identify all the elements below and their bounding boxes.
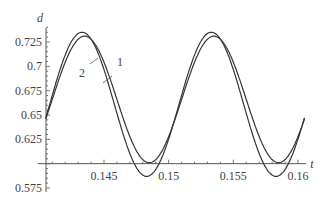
x-tick-label: 0.16: [288, 169, 309, 183]
y-tick-label: 0.7: [27, 59, 42, 73]
y-tick-label: 0.65: [21, 108, 42, 122]
annotation-leader-2: [90, 58, 98, 64]
y-tick-label: 0.725: [15, 35, 42, 49]
series-2-curve: [46, 36, 305, 163]
annotation-label-2: 2: [79, 66, 85, 80]
y-axis-label: d: [37, 11, 44, 25]
y-tick-label: 0.675: [15, 84, 42, 98]
x-tick-label: 0.155: [220, 169, 247, 183]
annotation-label-1: 1: [117, 55, 123, 69]
y-tick-label: 0.625: [15, 132, 42, 146]
x-tick-label: 0.15: [158, 169, 179, 183]
series-1-curve: [46, 32, 305, 176]
y-tick-label: 0.575: [15, 181, 42, 195]
chart: 0.5750.6250.650.6750.70.725d0.1450.150.1…: [0, 0, 322, 203]
plot-area: 0.5750.6250.650.6750.70.725d0.1450.150.1…: [0, 0, 322, 203]
x-tick-label: 0.145: [91, 169, 118, 183]
x-axis-label: t: [310, 157, 314, 171]
